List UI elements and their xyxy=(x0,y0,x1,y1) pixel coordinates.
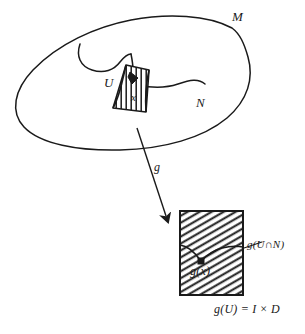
diagram-canvas xyxy=(0,0,305,334)
label-map-g: g xyxy=(154,161,160,173)
map-arrow-g xyxy=(137,128,166,216)
label-image-point-gx: g(x) xyxy=(190,265,210,277)
label-chart-domain-U: U xyxy=(104,76,113,89)
image-rectangle-gU xyxy=(180,211,243,295)
manifold-chart-diagram: M N U x g g(x) g(U∩N) g(U) = I × D xyxy=(0,0,305,334)
label-manifold-M: M xyxy=(232,10,243,23)
label-point-x: x xyxy=(131,92,136,103)
label-image-equation: g(U) = I × D xyxy=(214,303,280,315)
chart-patch-U xyxy=(113,65,149,112)
label-submanifold-N: N xyxy=(196,96,205,109)
label-image-intersection-gUN: g(U∩N) xyxy=(247,239,284,250)
